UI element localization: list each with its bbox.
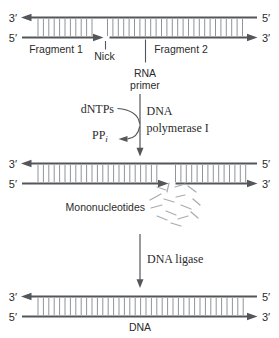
rna-primer-label-line2: primer [130, 79, 160, 91]
stage1-template-strand-left-arrowhead [21, 14, 32, 22]
dna-label: DNA [129, 321, 151, 333]
stage1-top-right-end-label: 5′ [262, 12, 270, 24]
stage1-top-left-end-label: 3′ [9, 12, 17, 24]
fragment1-label: Fragment 1 [29, 43, 83, 55]
stage2-bottom-right-end-label: 3′ [262, 178, 270, 190]
ppi-exit-curve [128, 127, 140, 139]
stage2-duplex-nick-translated: 3′ 5′ 5′ 3′ Mononucleotides [9, 158, 270, 227]
stage1-bottom-left-end-label: 5′ [9, 32, 17, 44]
ligase-label: DNA ligase [147, 252, 203, 266]
stage3-top-right-end-label: 5′ [262, 291, 270, 303]
stage1-bottom-right-end-label: 3′ [262, 32, 270, 44]
stage1-fragment2-arrowhead [247, 34, 258, 42]
fragment2-label: Fragment 2 [154, 43, 208, 55]
ppi-exit-arrowhead [119, 136, 128, 142]
stage1-duplex-with-nick: 3′ 5′ 5′ 3′ Fragment 1 Fragment 2 Nick R… [9, 12, 270, 92]
reaction1-arrowhead [137, 148, 144, 157]
nick-label: Nick [94, 50, 115, 62]
stage1-base-pair-rungs [38, 19, 243, 36]
stage2-top-left-end-label: 3′ [9, 158, 17, 170]
reaction1-dna-polymerase: dNTPs PPi DNA polymerase I [81, 94, 209, 157]
reaction2-arrowhead [137, 279, 144, 288]
stage2-top-right-end-label: 5′ [262, 158, 270, 170]
diagram-canvas: 3′ 5′ 5′ 3′ Fragment 1 Fragment 2 Nick R… [0, 0, 279, 338]
stage2-fragment1-arrowhead [158, 180, 169, 188]
stage1-fragment1-arrowhead [93, 34, 104, 42]
mononucleotides-label: Mononucleotides [66, 201, 145, 213]
polymerase-label-line2: polymerase I [147, 121, 209, 135]
reaction2-dna-ligase: DNA ligase [137, 234, 204, 288]
rna-primer-label-line1: RNA [134, 67, 156, 79]
stage3-bottom-left-end-label: 5′ [9, 311, 17, 323]
stage3-top-left-end-label: 3′ [9, 291, 17, 303]
mononucleotide-fragments [150, 183, 200, 226]
dntps-entry-curve [118, 109, 140, 124]
dntps-label: dNTPs [81, 102, 115, 116]
dna-nick-sealing-diagram: 3′ 5′ 5′ 3′ Fragment 1 Fragment 2 Nick R… [0, 0, 279, 338]
stage2-template-strand-left-arrowhead [21, 160, 32, 168]
stage3-sealed-duplex: 3′ 5′ 5′ 3′ DNA [9, 291, 270, 334]
stage2-base-pair-rungs [38, 165, 246, 182]
stage3-bottom-right-end-label: 3′ [262, 311, 270, 323]
ppi-label: PPi [92, 128, 108, 144]
stage2-fragment2-arrowhead [247, 180, 258, 188]
stage3-base-pair-rungs [38, 298, 243, 315]
stage3-top-strand-left-arrowhead [21, 293, 32, 301]
polymerase-label-line1: DNA [147, 104, 173, 118]
stage3-bottom-strand-arrowhead [247, 313, 258, 321]
stage2-bottom-left-end-label: 5′ [9, 178, 17, 190]
